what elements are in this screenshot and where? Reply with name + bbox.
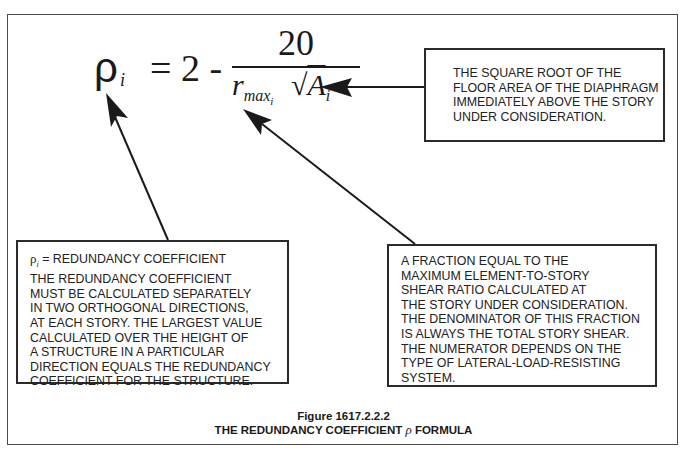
callout-line: SHEAR RATIO CALCULATED AT	[401, 283, 655, 298]
callout-line: UNDER CONSIDERATION.	[453, 110, 663, 125]
callout-line: A FRACTION EQUAL TO THE	[401, 254, 655, 269]
callout-redundancy-coefficient: ρi = REDUNDANCY COEFFICIENT THE REDUNDAN…	[16, 240, 289, 384]
callout-line: MUST BE CALCULATED SEPARATELY	[30, 287, 287, 302]
callout-rmax-fraction: A FRACTION EQUAL TO THE MAXIMUM ELEMENT-…	[387, 244, 657, 387]
callout-sqrt-area: THE SQUARE ROOT OF THE FLOOR AREA OF THE…	[424, 48, 665, 142]
callout-line: FLOOR AREA OF THE DIAPHRAGM	[453, 81, 663, 96]
figure-title: THE REDUNDANCY COEFFICIENT ρ FORMULA	[0, 423, 687, 437]
arrow-to-rho	[106, 93, 168, 240]
callout-line: IS ALWAYS THE TOTAL STORY SHEAR.	[401, 327, 655, 342]
figure-caption: Figure 1617.2.2.2 THE REDUNDANCY COEFFIC…	[0, 410, 687, 437]
figure-number: Figure 1617.2.2.2	[0, 410, 687, 423]
callout-line: COEFFICIENT FOR THE STRUCTURE.	[30, 374, 287, 389]
rho-symbol: ρi	[30, 251, 39, 266]
callout-line: AT EACH STORY. THE LARGEST VALUE	[30, 316, 287, 331]
callout-line: THE DENOMINATOR OF THIS FRACTION	[401, 312, 655, 327]
arrow-to-rmax	[243, 109, 415, 244]
callout-line: THE NUMERATOR DEPENDS ON THE	[401, 342, 655, 357]
callout-line: SYSTEM.	[401, 371, 655, 386]
callout-line: IN TWO ORTHOGONAL DIRECTIONS,	[30, 301, 287, 316]
callout-line: THE SQUARE ROOT OF THE	[453, 66, 663, 81]
callout-line: A STRUCTURE IN A PARTICULAR	[30, 345, 287, 360]
callout-line: THE STORY UNDER CONSIDERATION.	[401, 298, 655, 313]
callout-line: IMMEDIATELY ABOVE THE STORY	[453, 95, 663, 110]
callout-line: MAXIMUM ELEMENT-TO-STORY	[401, 269, 655, 284]
callout-line: DIRECTION EQUALS THE REDUNDANCY	[30, 360, 287, 375]
arrow-to-sqrt-area	[320, 78, 424, 97]
callout-line-definition: ρi = REDUNDANCY COEFFICIENT	[30, 252, 287, 272]
callout-line: TYPE OF LATERAL-LOAD-RESISTING	[401, 356, 655, 371]
callout-line: THE REDUNDANCY COEFFICIENT	[30, 272, 287, 287]
callout-line: CALCULATED OVER THE HEIGHT OF	[30, 331, 287, 346]
